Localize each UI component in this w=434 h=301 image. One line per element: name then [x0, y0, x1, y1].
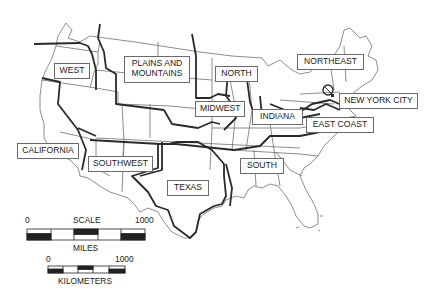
- region-label-texas: TEXAS: [167, 180, 209, 196]
- region-label-southwest: SOUTHWEST: [88, 156, 153, 172]
- miles-scale-start: 0: [25, 215, 30, 225]
- kilometers-unit-label: KILOMETERS: [58, 276, 112, 286]
- label-text: NEW YORK CITY: [344, 95, 413, 105]
- region-label-california: CALIFORNIA: [17, 143, 79, 159]
- region-label-east-coast: EAST COAST: [306, 117, 374, 133]
- label-text-line2: MOUNTAINS: [132, 68, 183, 78]
- miles-unit-label: MILES: [73, 243, 98, 253]
- label-text: WEST: [60, 65, 85, 75]
- region-label-northeast: NORTHEAST: [297, 54, 364, 70]
- label-text: SOUTHWEST: [93, 158, 148, 168]
- label-text: EAST COAST: [313, 119, 367, 129]
- region-label-west: WEST: [54, 63, 90, 79]
- region-label-north: NORTH: [215, 66, 258, 82]
- kilometers-scale-bar: [48, 266, 125, 273]
- region-label-midwest: MIDWEST: [195, 101, 245, 117]
- region-label-new-york-city: NEW YORK CITY: [339, 93, 418, 109]
- label-text: INDIANA: [260, 111, 295, 121]
- label-text-line1: PLAINS AND: [132, 58, 183, 68]
- label-text: MIDWEST: [200, 103, 241, 113]
- kilometers-scale-end: 1000: [115, 254, 134, 264]
- miles-scale-bar: [27, 229, 145, 240]
- label-text: TEXAS: [174, 182, 202, 192]
- label-text: NORTH: [221, 68, 251, 78]
- region-label-plains-and-mountains: PLAINS AND MOUNTAINS: [124, 56, 190, 83]
- label-text: CALIFORNIA: [22, 145, 74, 155]
- label-text: NORTHEAST: [304, 56, 357, 66]
- kilometers-scale-start: 0: [46, 254, 51, 264]
- scale-title: SCALE: [73, 215, 100, 225]
- region-label-indiana: INDIANA: [252, 109, 303, 125]
- region-label-south: SOUTH: [240, 158, 284, 174]
- label-text: SOUTH: [247, 160, 277, 170]
- miles-scale-end: 1000: [135, 215, 154, 225]
